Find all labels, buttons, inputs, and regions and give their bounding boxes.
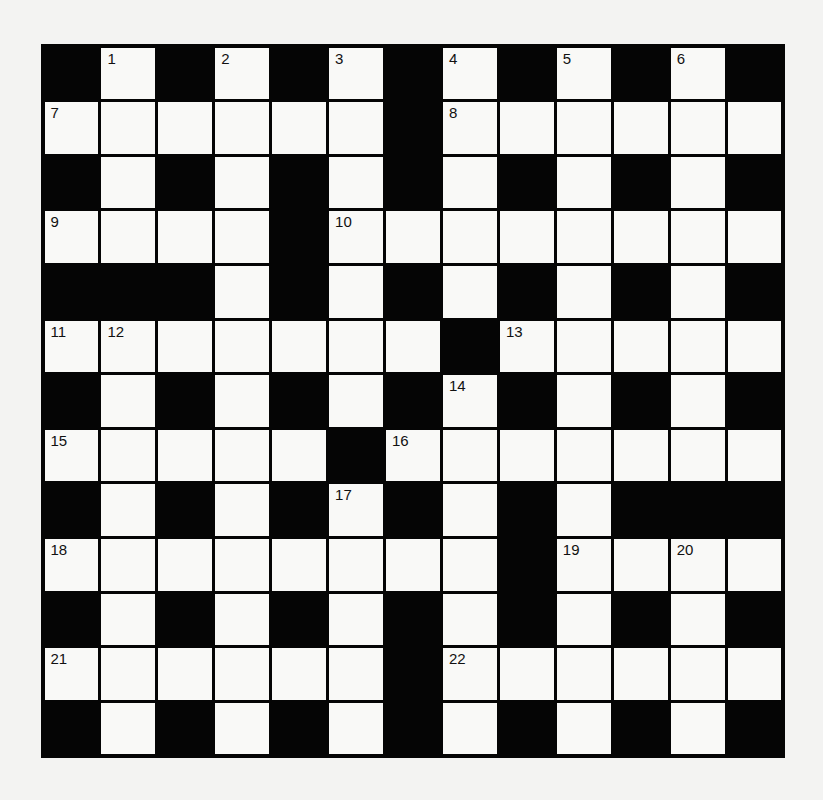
answer-cell[interactable] (215, 321, 269, 373)
answer-cell[interactable] (101, 594, 155, 646)
answer-cell[interactable] (557, 266, 611, 318)
answer-cell[interactable] (443, 484, 497, 536)
answer-cell[interactable] (386, 321, 440, 373)
answer-cell[interactable] (329, 375, 383, 427)
answer-cell[interactable] (614, 321, 668, 373)
answer-cell[interactable] (272, 102, 326, 154)
answer-cell[interactable] (329, 594, 383, 646)
answer-cell[interactable] (101, 703, 155, 755)
answer-cell[interactable] (557, 375, 611, 427)
answer-cell[interactable] (557, 430, 611, 482)
answer-cell[interactable]: 2 (215, 48, 269, 100)
answer-cell[interactable]: 6 (671, 48, 725, 100)
answer-cell[interactable] (443, 539, 497, 591)
answer-cell[interactable]: 13 (500, 321, 554, 373)
answer-cell[interactable] (215, 539, 269, 591)
answer-cell[interactable] (443, 430, 497, 482)
answer-cell[interactable]: 10 (329, 211, 383, 263)
answer-cell[interactable]: 3 (329, 48, 383, 100)
answer-cell[interactable]: 21 (45, 648, 99, 700)
answer-cell[interactable] (101, 539, 155, 591)
answer-cell[interactable] (500, 102, 554, 154)
answer-cell[interactable]: 12 (101, 321, 155, 373)
answer-cell[interactable] (671, 211, 725, 263)
answer-cell[interactable]: 8 (443, 102, 497, 154)
answer-cell[interactable] (728, 539, 782, 591)
answer-cell[interactable] (158, 211, 212, 263)
answer-cell[interactable] (386, 539, 440, 591)
answer-cell[interactable] (557, 211, 611, 263)
answer-cell[interactable] (728, 102, 782, 154)
answer-cell[interactable] (671, 321, 725, 373)
answer-cell[interactable]: 18 (45, 539, 99, 591)
answer-cell[interactable] (215, 484, 269, 536)
answer-cell[interactable] (500, 430, 554, 482)
answer-cell[interactable] (272, 648, 326, 700)
answer-cell[interactable]: 7 (45, 102, 99, 154)
answer-cell[interactable] (557, 703, 611, 755)
answer-cell[interactable] (158, 321, 212, 373)
answer-cell[interactable]: 19 (557, 539, 611, 591)
answer-cell[interactable] (329, 321, 383, 373)
answer-cell[interactable] (671, 102, 725, 154)
answer-cell[interactable] (158, 648, 212, 700)
answer-cell[interactable] (101, 157, 155, 209)
answer-cell[interactable] (614, 539, 668, 591)
answer-cell[interactable] (671, 430, 725, 482)
answer-cell[interactable] (557, 484, 611, 536)
answer-cell[interactable] (557, 157, 611, 209)
answer-cell[interactable] (728, 321, 782, 373)
answer-cell[interactable] (329, 266, 383, 318)
answer-cell[interactable] (671, 594, 725, 646)
answer-cell[interactable] (671, 375, 725, 427)
answer-cell[interactable] (158, 430, 212, 482)
answer-cell[interactable]: 16 (386, 430, 440, 482)
answer-cell[interactable] (101, 648, 155, 700)
answer-cell[interactable] (272, 539, 326, 591)
answer-cell[interactable] (443, 157, 497, 209)
answer-cell[interactable] (272, 430, 326, 482)
answer-cell[interactable] (443, 703, 497, 755)
answer-cell[interactable] (101, 211, 155, 263)
answer-cell[interactable] (728, 648, 782, 700)
answer-cell[interactable] (329, 539, 383, 591)
answer-cell[interactable] (272, 321, 326, 373)
answer-cell[interactable] (557, 594, 611, 646)
answer-cell[interactable] (215, 157, 269, 209)
answer-cell[interactable] (728, 211, 782, 263)
answer-cell[interactable] (671, 157, 725, 209)
answer-cell[interactable] (215, 102, 269, 154)
answer-cell[interactable] (614, 102, 668, 154)
answer-cell[interactable]: 17 (329, 484, 383, 536)
answer-cell[interactable] (500, 648, 554, 700)
answer-cell[interactable] (215, 266, 269, 318)
answer-cell[interactable] (329, 157, 383, 209)
answer-cell[interactable] (671, 266, 725, 318)
answer-cell[interactable] (158, 539, 212, 591)
answer-cell[interactable] (614, 211, 668, 263)
answer-cell[interactable] (215, 375, 269, 427)
answer-cell[interactable] (443, 266, 497, 318)
answer-cell[interactable]: 9 (45, 211, 99, 263)
answer-cell[interactable] (215, 594, 269, 646)
answer-cell[interactable] (386, 211, 440, 263)
answer-cell[interactable] (614, 430, 668, 482)
answer-cell[interactable] (671, 703, 725, 755)
answer-cell[interactable] (557, 648, 611, 700)
answer-cell[interactable] (728, 430, 782, 482)
answer-cell[interactable]: 5 (557, 48, 611, 100)
answer-cell[interactable] (614, 648, 668, 700)
answer-cell[interactable]: 4 (443, 48, 497, 100)
answer-cell[interactable] (215, 211, 269, 263)
answer-cell[interactable] (500, 211, 554, 263)
answer-cell[interactable]: 20 (671, 539, 725, 591)
answer-cell[interactable] (329, 703, 383, 755)
answer-cell[interactable] (215, 703, 269, 755)
answer-cell[interactable] (158, 102, 212, 154)
answer-cell[interactable] (443, 211, 497, 263)
answer-cell[interactable] (101, 102, 155, 154)
answer-cell[interactable] (443, 594, 497, 646)
answer-cell[interactable]: 1 (101, 48, 155, 100)
answer-cell[interactable] (215, 430, 269, 482)
answer-cell[interactable]: 11 (45, 321, 99, 373)
